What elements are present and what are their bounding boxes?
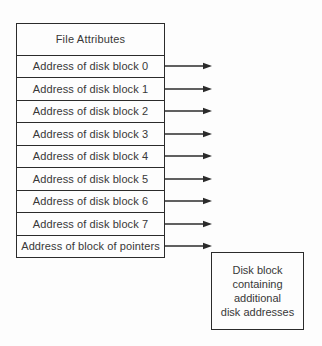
table-row: Address of disk block 6 bbox=[17, 190, 164, 213]
arrow-right-icon bbox=[165, 196, 212, 206]
arrow-right-icon bbox=[165, 219, 212, 229]
disk-block-address-label: Address of disk block 6 bbox=[33, 195, 148, 207]
table-row: Address of disk block 3 bbox=[17, 122, 164, 145]
arrow-right-icon bbox=[165, 61, 212, 71]
disk-block-address-label: Address of disk block 2 bbox=[33, 105, 148, 117]
disk-block-address-label: Address of disk block 1 bbox=[33, 83, 148, 95]
address-rows: Address of disk block 0 Address of disk … bbox=[17, 55, 164, 258]
arrow-right-icon bbox=[165, 84, 212, 94]
disk-block-address-label: Address of disk block 5 bbox=[33, 173, 148, 185]
arrow-right-icon bbox=[165, 106, 212, 116]
inode-structure-diagram: File Attributes Address of disk block 0 … bbox=[0, 0, 322, 346]
arrow-right-icon bbox=[165, 129, 212, 139]
disk-block-address-label: Address of disk block 7 bbox=[33, 218, 148, 230]
table-row: Address of disk block 2 bbox=[17, 100, 164, 123]
table-row: Address of block of pointers bbox=[17, 235, 164, 258]
arrow-right-icon bbox=[165, 241, 212, 251]
disk-block-address-label: Address of disk block 0 bbox=[33, 60, 148, 72]
indirect-block-label: Disk block containing additional disk ad… bbox=[221, 263, 294, 319]
file-attributes-header: File Attributes bbox=[17, 24, 164, 55]
arrow-right-icon bbox=[165, 174, 212, 184]
table-row: Address of disk block 4 bbox=[17, 145, 164, 168]
indirect-block-box: Disk block containing additional disk ad… bbox=[211, 252, 304, 330]
disk-block-address-label: Address of disk block 4 bbox=[33, 150, 148, 162]
table-row: Address of disk block 7 bbox=[17, 212, 164, 235]
table-row: Address of disk block 0 bbox=[17, 55, 164, 78]
table-row: Address of disk block 1 bbox=[17, 77, 164, 100]
arrow-right-icon bbox=[165, 151, 212, 161]
file-attributes-table: File Attributes Address of disk block 0 … bbox=[16, 23, 165, 258]
table-row: Address of disk block 5 bbox=[17, 167, 164, 190]
disk-block-address-label: Address of disk block 3 bbox=[33, 128, 148, 140]
disk-block-address-label: Address of block of pointers bbox=[21, 240, 160, 252]
